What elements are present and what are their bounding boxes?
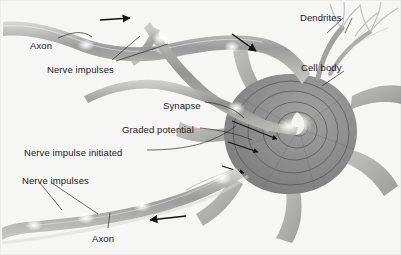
label-graded-potential: Graded potential <box>122 124 194 135</box>
label-nerve-impulses-bottom: Nerve impulses <box>22 175 89 186</box>
label-dendrites: Dendrites <box>300 12 342 23</box>
label-axon-top: Axon <box>30 40 52 51</box>
neuron-diagram-figure: Axon Nerve impulses Dendrites Cell body … <box>0 0 401 255</box>
neuron-illustration <box>0 0 401 255</box>
label-nerve-impulse-initiated: Nerve impulse initiated <box>24 147 122 158</box>
label-synapse: Synapse <box>163 100 201 111</box>
label-cell-body: Cell body <box>301 62 342 73</box>
label-axon-bottom: Axon <box>92 233 114 244</box>
label-nerve-impulses-top: Nerve impulses <box>47 64 114 75</box>
